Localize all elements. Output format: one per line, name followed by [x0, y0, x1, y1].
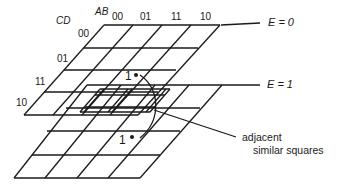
annotation-line1: adjacent [242, 132, 282, 143]
cell-dot-e0 [134, 73, 138, 77]
annotation-line2: similar squares [253, 145, 324, 156]
plane-label-e0: E = 0 [268, 17, 294, 28]
column-label-11: 11 [171, 12, 181, 22]
plane-label-e1: E = 1 [267, 79, 293, 90]
leader-e0 [221, 23, 260, 25]
cell-dot-e1 [130, 135, 134, 139]
marker-one-e1: 1 [119, 134, 126, 146]
column-label-01: 01 [140, 12, 151, 22]
column-label-10: 10 [200, 12, 211, 22]
row-label-00: 00 [78, 29, 89, 39]
row-label-11: 11 [35, 77, 45, 87]
row-label-10: 10 [16, 98, 27, 108]
row-label-01: 01 [57, 54, 68, 64]
column-label-00: 00 [112, 12, 123, 22]
column-variable-label: AB [95, 7, 108, 17]
marker-one-e0: 1 [125, 70, 132, 82]
leader-annotation [154, 110, 236, 137]
plane-e0-grid [24, 25, 220, 115]
row-variable-label: CD [56, 16, 70, 26]
plane-e1-grid [14, 85, 222, 178]
